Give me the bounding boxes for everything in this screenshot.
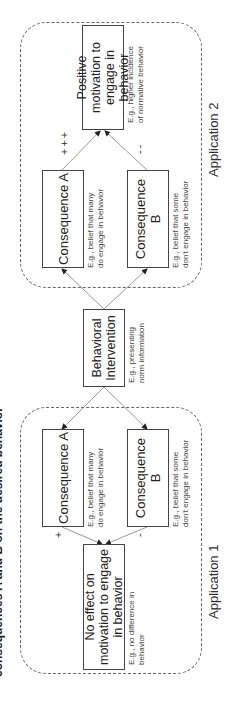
intervention-box: Behavioral Intervention (83, 309, 125, 387)
app2-consequence-b-label: Consequence B (133, 173, 163, 265)
app1-consequence-a-box: Consequence A (42, 429, 84, 527)
app1-outcome-note: E.g., no difference in behavior (127, 592, 147, 665)
intervention-label: Behavioral Intervention (90, 312, 118, 384)
app1-consequence-a-label: Consequence A (56, 432, 71, 524)
app1-outcome-label: No effect on motivation to engage in beh… (83, 547, 125, 667)
application-2-label: Application 2 (206, 103, 221, 177)
app2-outcome-label: Positive motivation to engage in behavio… (75, 28, 131, 127)
app1-outcome-box: No effect on motivation to engage in beh… (83, 544, 125, 670)
app2-consequence-b-box: Consequence B (127, 170, 169, 268)
app1-consequence-b-box: Consequence B (127, 429, 169, 527)
diagram-canvas: consequences A and B on the desired beha… (0, 0, 243, 705)
app2-sign-a: +++ (58, 130, 70, 155)
application-1-label: Application 1 (206, 545, 221, 619)
app1-consequence-a-note: E.g., belief that many do engage in beha… (86, 448, 106, 527)
app2-outcome-box: Positive motivation to engage in behavio… (82, 25, 124, 130)
app2-sign-b: -- (133, 143, 145, 154)
app1-consequence-b-label: Consequence B (133, 432, 163, 524)
app2-consequence-b-note: E.g., belief that some don't engage in b… (171, 181, 191, 268)
intervention-note: E.g., presenting norm information (127, 323, 147, 383)
app2-outcome-note: E.g., higher incidence of normative beha… (126, 46, 146, 123)
app2-consequence-a-note: E.g., belief that many do engage in beha… (86, 189, 106, 268)
app2-consequence-a-box: Consequence A (42, 170, 84, 268)
app1-sign-b: - (133, 531, 145, 537)
app1-consequence-b-note: E.g., belief that some don't engage in b… (171, 440, 191, 527)
app1-sign-a: + (52, 530, 64, 538)
app2-consequence-a-label: Consequence A (56, 173, 71, 265)
